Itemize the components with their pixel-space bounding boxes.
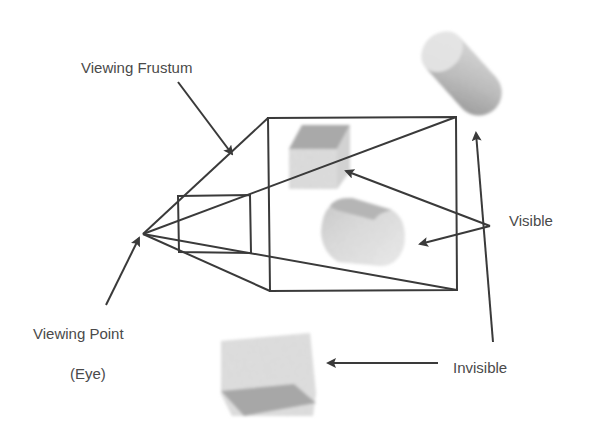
eye-label: (Eye)	[70, 366, 106, 381]
frustum-diagram: Viewing Frustum Viewing Point (Eye) Visi…	[0, 0, 596, 439]
invisible-cylinder-object	[413, 23, 511, 125]
frustum-arrow	[178, 82, 232, 154]
visible-arrow-cylinder	[420, 226, 490, 244]
visible-label: Visible	[509, 213, 553, 228]
visible-cube-object	[289, 125, 350, 189]
eye-arrow	[106, 238, 139, 305]
viewing-point-label: Viewing Point	[33, 326, 124, 341]
invisible-label: Invisible	[453, 360, 507, 375]
near-plane	[178, 195, 251, 253]
viewing-frustum-label: Viewing Frustum	[81, 60, 192, 75]
invisible-cube-object	[221, 333, 316, 416]
visible-cylinder-object	[321, 198, 405, 266]
invisible-arrow-cylinder	[476, 133, 493, 342]
